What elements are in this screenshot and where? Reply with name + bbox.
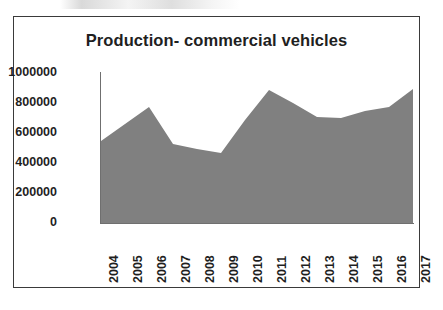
area-series-production-commercial-vehicles (101, 73, 413, 223)
y-axis-tick-label: 1000000 (0, 65, 57, 79)
chart-title: Production- commercial vehicles (14, 31, 419, 50)
y-axis-tick-label: 200000 (0, 185, 57, 199)
scan-artifact (60, 0, 240, 9)
x-axis-tick-label: 2004 (94, 231, 108, 285)
x-axis-tick-label: 2007 (166, 231, 180, 285)
x-axis-tick-label: 2014 (334, 231, 348, 285)
x-axis-tick-label-text: 2017 (419, 255, 433, 283)
plot-area (101, 73, 413, 223)
y-axis-tick-label: 600000 (0, 125, 57, 139)
x-axis-tick-label: 2008 (190, 231, 204, 285)
x-axis-tick-label: 2010 (238, 231, 252, 285)
x-axis-tick-label: 2005 (118, 231, 132, 285)
x-axis-tick-label: 2013 (310, 231, 324, 285)
x-axis-tick-label: 2009 (214, 231, 228, 285)
x-axis-tick-label: 2016 (382, 231, 396, 285)
y-axis-tick-label: 400000 (0, 155, 57, 169)
x-axis-tick-label: 2015 (358, 231, 372, 285)
chart-frame: Production- commercial vehicles 02000004… (13, 16, 420, 288)
chart-screenshot: Production- commercial vehicles 02000004… (0, 0, 443, 310)
x-axis-tick-label: 2017 (406, 231, 420, 285)
y-axis-tick-label: 0 (0, 215, 57, 229)
x-axis-line (100, 223, 414, 224)
x-axis-tick-label: 2006 (142, 231, 156, 285)
x-axis-tick-label: 2012 (286, 231, 300, 285)
y-axis-tick-label: 800000 (0, 95, 57, 109)
x-axis-tick-label: 2011 (262, 231, 276, 285)
